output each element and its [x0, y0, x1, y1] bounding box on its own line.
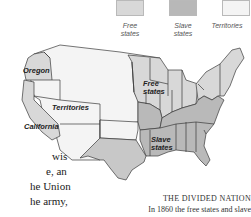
body-text-line-2: e, an: [46, 165, 67, 178]
map-label-territories: Territories: [52, 104, 89, 112]
body-text-line-4: he army,: [30, 195, 68, 208]
body-text-line-1: wis: [52, 150, 67, 163]
map-label-free-line2: states: [143, 88, 165, 96]
map-label-california: California: [24, 123, 59, 131]
body-text-line-3: he Union: [30, 180, 71, 193]
map-label-oregon: Oregon: [23, 67, 50, 75]
map-label-slave-line2: states: [151, 144, 173, 152]
region-kansas-territory: [100, 120, 138, 140]
map-label-free-states: Free states: [143, 80, 165, 96]
caption-title: THE DIVIDED NATION: [100, 194, 251, 203]
caption-text: In 1860 the free states and slave: [90, 205, 251, 214]
map-label-slave-states: Slave states: [151, 136, 173, 152]
